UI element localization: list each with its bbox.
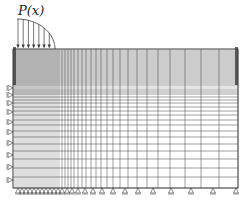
load-label: P(x) <box>18 4 44 17</box>
right-edge-dense-band <box>235 47 238 85</box>
left-roller-supports <box>7 85 13 183</box>
distributed-load-p-of-x <box>16 19 55 49</box>
bottom-roller-supports <box>15 188 239 194</box>
left-edge-dense-band <box>13 47 16 85</box>
fem-mesh-figure <box>0 0 251 206</box>
